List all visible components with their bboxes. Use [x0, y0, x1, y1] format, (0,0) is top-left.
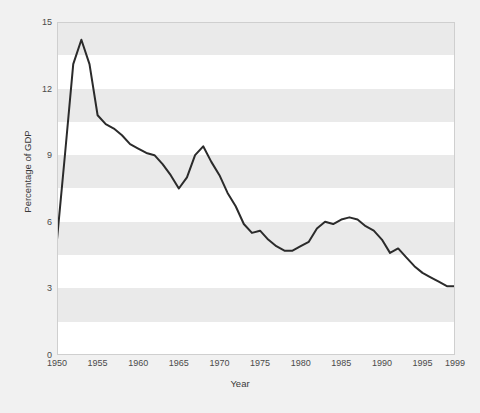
x-tick-label: 1965 [169, 358, 189, 368]
y-tick-label: 15 [6, 18, 52, 27]
x-tick-label: 1950 [47, 358, 67, 368]
x-tick-label: 1970 [209, 358, 229, 368]
plot-area [57, 22, 455, 355]
x-axis-label: Year [0, 378, 480, 389]
x-tick-label: 1985 [331, 358, 351, 368]
chart-figure: 03691215 Percentage of GDP 1950195519601… [0, 0, 480, 413]
x-tick-label: 1980 [291, 358, 311, 368]
x-axis-tick-labels: 1950195519601965197019751980198519901995… [0, 358, 480, 374]
x-tick-label: 1955 [88, 358, 108, 368]
x-tick-label: 1999 [445, 358, 465, 368]
y-tick-label: 12 [6, 85, 52, 94]
x-tick-label: 1995 [412, 358, 432, 368]
series-line-chart [57, 22, 455, 355]
x-tick-label: 1960 [128, 358, 148, 368]
series-line-defense-spending [57, 40, 455, 286]
x-tick-label: 1975 [250, 358, 270, 368]
y-tick-label: 3 [6, 284, 52, 293]
y-axis-label: Percentage of GDP [22, 112, 33, 232]
x-tick-label: 1990 [372, 358, 392, 368]
